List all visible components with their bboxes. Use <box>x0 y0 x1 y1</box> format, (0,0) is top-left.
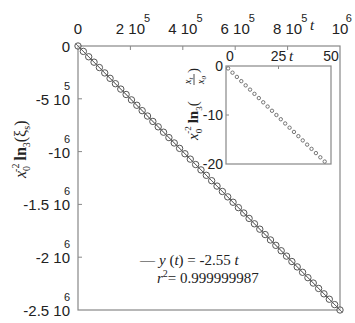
svg-text:): ) <box>185 68 202 73</box>
x-tick-exponent: 5 <box>196 12 202 24</box>
main-y-axis-ticks: 0-5 105-106-1.5 106-2 106-2.5 106 <box>23 38 82 319</box>
svg-text:x0: x0 <box>195 76 208 85</box>
x-tick-exponent: 5 <box>249 12 255 24</box>
inset-y-tick-label: -10 <box>203 107 223 123</box>
y-tick-label: -1.5 10 <box>23 196 70 213</box>
r-squared-annotation: r2= 0.999999987 <box>157 268 259 286</box>
y-tick-label: -2 10 <box>36 249 70 266</box>
fit-equation-annotation: —y (t) = -2.55 t <box>139 252 240 269</box>
inset-x-tick-label: 25 <box>271 48 287 64</box>
chart-canvas: 02 1054 1056 1058 105106 0-5 105-106-1.5… <box>0 0 355 323</box>
x-tick-label: 8 10 <box>273 20 302 37</box>
x-tick-label: 6 10 <box>221 20 250 37</box>
y-tick-label: 0 <box>62 38 70 55</box>
y-tick-exponent: 6 <box>64 133 70 145</box>
main-y-axis-label: x0-2ln3(ξs) <box>10 121 32 180</box>
y-tick-exponent: 6 <box>64 238 70 250</box>
x-tick-exponent: 5 <box>301 12 307 24</box>
inset-x-tick-label: 50 <box>323 48 339 64</box>
svg-text:xt: xt <box>182 77 195 85</box>
y-tick-exponent: 6 <box>64 185 70 197</box>
x-tick-label: 2 10 <box>116 20 145 37</box>
inset-y-tick-label: 0 <box>215 58 223 74</box>
inset-x-axis-label: t <box>289 48 294 64</box>
y-tick-label: -2.5 10 <box>23 302 70 319</box>
y-tick-label: -10 <box>48 144 70 161</box>
x-tick-label: 0 <box>74 20 82 37</box>
x-tick-label: 4 10 <box>168 20 197 37</box>
inset-y-axis-ticks: 0-10-20 <box>203 58 229 172</box>
svg-text:x0-2ln3(: x0-2ln3( <box>183 101 204 141</box>
inset-y-tick-label: -20 <box>203 156 223 172</box>
main-x-axis-label: t <box>310 17 315 33</box>
y-tick-label: -5 10 <box>36 91 70 108</box>
y-tick-exponent: 6 <box>64 291 70 303</box>
inset-y-axis-label: x0-2ln3( xt x0 ) <box>182 68 208 141</box>
x-tick-exponent: 5 <box>144 12 150 24</box>
x-tick-exponent: 6 <box>346 12 352 24</box>
inset-x-tick-label: 0 <box>226 48 234 64</box>
y-tick-exponent: 5 <box>64 80 70 92</box>
svg-text:x0-2ln3(ξs): x0-2ln3(ξs) <box>10 121 32 180</box>
